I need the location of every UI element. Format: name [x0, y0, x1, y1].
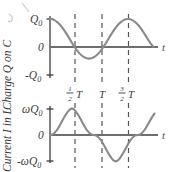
svg-text:T: T [99, 88, 106, 100]
svg-text:3: 3 [119, 85, 124, 93]
svg-text:T: T [128, 88, 135, 100]
xtick-half-T: 1 2 T [67, 85, 84, 103]
crop-artifact [8, 3, 29, 22]
svg-text:2: 2 [68, 95, 72, 103]
xtick-T: T [99, 88, 106, 100]
current-y-axis-label: Current I in L [1, 108, 13, 172]
current-ytick-bottom: -ωQ0 [17, 155, 41, 170]
oscillation-figure: Charge Q on C Q0 0 -Q0 t 1 2 T [0, 0, 171, 172]
svg-text:2: 2 [120, 95, 124, 103]
charge-ytick-bottom: -Q0 [25, 69, 41, 84]
charge-ytick-top: Q0 [30, 13, 42, 28]
charge-ytick-mid: 0 [38, 41, 44, 53]
charge-y-axis-label: Charge Q on C [1, 40, 14, 111]
current-x-axis-label: t [162, 129, 166, 141]
xtick-three-halves-T: 3 2 T [119, 85, 136, 103]
charge-x-axis-label: t [162, 41, 166, 53]
current-ytick-mid: 0 [38, 129, 44, 141]
svg-text:T: T [76, 88, 83, 100]
charge-chart: Charge Q on C Q0 0 -Q0 t [1, 13, 166, 110]
current-ytick-top: ωQ0 [22, 103, 42, 118]
current-chart: Current I in L ωQ0 0 -ωQ0 t [1, 103, 166, 172]
svg-text:1: 1 [68, 85, 72, 93]
x-tick-labels: 1 2 T T 3 2 T [67, 85, 136, 103]
